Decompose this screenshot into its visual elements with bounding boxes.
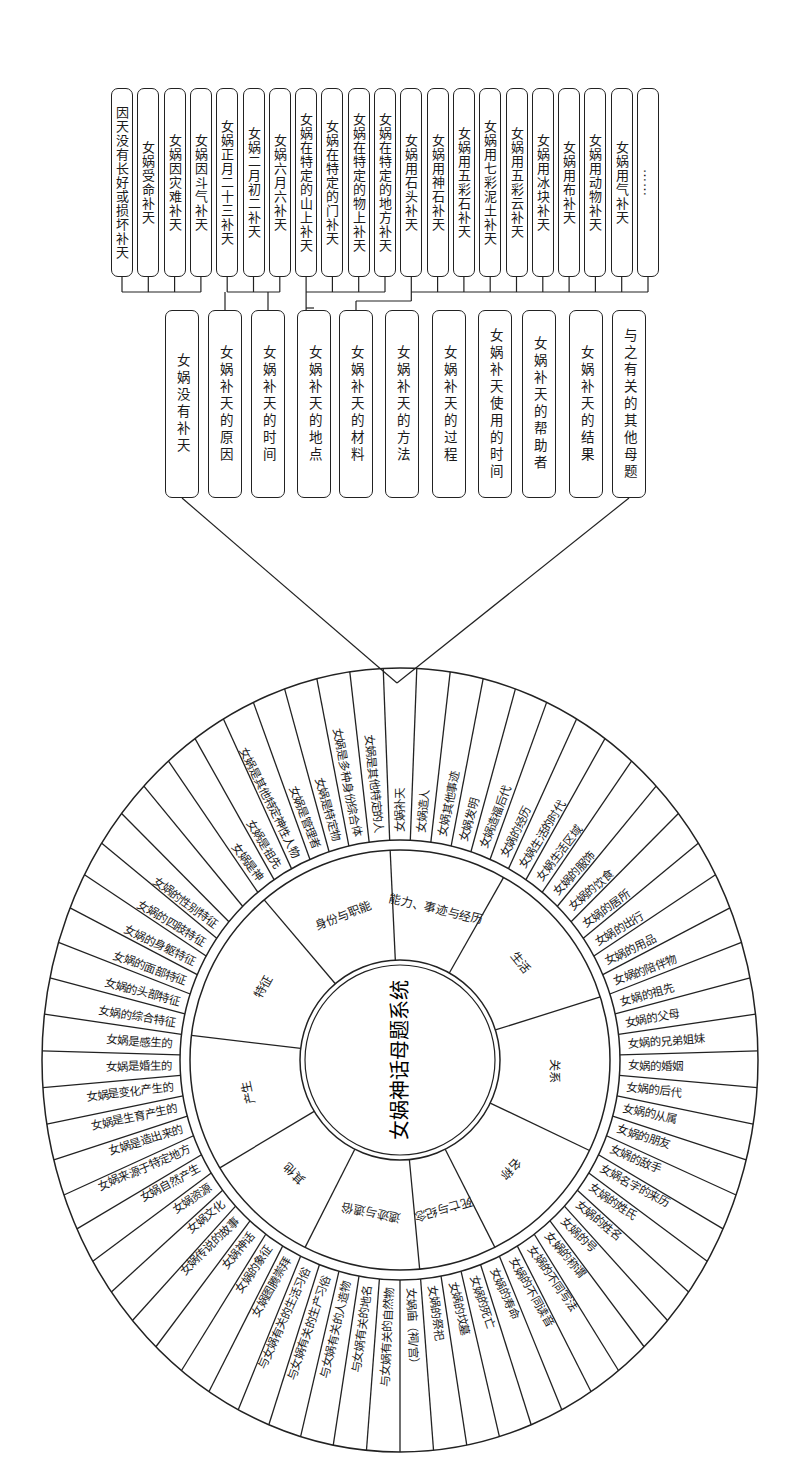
motif-segment-label: 女娲庙（祠/宫）: [404, 1287, 422, 1368]
motif-segment: 女娲的祖先: [619, 981, 676, 1009]
motif-segment: 女娲造人: [414, 788, 432, 834]
motif-segment-label: 女娲是感生的: [106, 1032, 173, 1051]
motif-segment-label: 女娲的兄弟姐妹: [627, 1032, 706, 1051]
motif-segment: 女娲是其他特定的人: [362, 734, 385, 835]
motif-segment-label: 与女娲有关的自然物: [378, 1287, 397, 1387]
center-title: 女娲神话母题系统: [388, 980, 412, 1140]
motif-segment-label: 与女娲有关的地名: [349, 1285, 375, 1374]
category-label: 能力、事迹与经历: [388, 891, 485, 927]
motif-segment: 女娲是感生的: [106, 1032, 173, 1051]
motif-segment: 女娲发明: [457, 797, 483, 843]
motif-segment: 女娲是婚生的: [106, 1058, 172, 1074]
motif-segment-label: 女娲是婚生的: [106, 1058, 172, 1074]
category-label: 死亡与纪念: [412, 1194, 474, 1225]
motif-segment: 女娲的综合特征: [98, 1003, 177, 1030]
category-label: 生活: [508, 949, 534, 976]
category-label: 特征: [251, 972, 276, 1000]
motif-segment: 与女娲有关的自然物: [378, 1287, 397, 1387]
motif-segment: 女娲其他事迹: [436, 769, 462, 837]
motif-segment: 与女娲有关的地名: [349, 1285, 375, 1374]
category-label: 产生: [239, 1079, 258, 1105]
motif-segment-label: 女娲其他事迹: [436, 769, 462, 837]
motif-segment-label: 女娲的综合特征: [98, 1003, 177, 1030]
motif-segment-label: 女娲是其他特定的人: [362, 734, 385, 835]
category-label: 名称: [497, 1155, 525, 1183]
motif-segment-label: 女娲的婚姻: [628, 1058, 683, 1073]
motif-segment-label: 女娲的坟墓: [446, 1280, 473, 1338]
motif-segment: 女娲补天: [393, 787, 407, 832]
motif-segment: 女娲的婚姻: [628, 1058, 683, 1073]
motif-segment: 女娲的后代: [626, 1080, 683, 1100]
category-label: 遗迹与遗俗: [340, 1200, 402, 1225]
motif-segment: 女娲庙（祠/宫）: [404, 1287, 422, 1368]
motif-segment-label: 女娲的祖先: [619, 981, 676, 1009]
motif-segment: 女娲的兄弟姐妹: [627, 1032, 706, 1051]
motif-segment-label: 女娲的后代: [626, 1080, 683, 1100]
motif-wheel: 女娲补天女娲造人女娲其他事迹女娲发明女娲造福后代女娲的经历女娲生活的时代女娲生活…: [0, 0, 803, 1483]
motif-segment-label: 女娲造人: [414, 788, 432, 834]
category-label: 关系: [547, 1058, 563, 1083]
motif-segment: 女娲的坟墓: [446, 1280, 473, 1338]
motif-segment-label: 女娲补天: [393, 787, 407, 832]
category-label: 其他: [281, 1160, 308, 1187]
category-label: 身份与职能: [312, 897, 373, 933]
motif-segment-label: 女娲发明: [457, 797, 483, 843]
